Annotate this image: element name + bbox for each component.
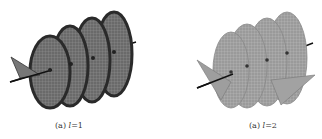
figure-panel-l1: (a) l=1 (0, 0, 161, 139)
figure-panel-l2: (a) l=2 (161, 0, 322, 139)
helix-surface-l2 (161, 0, 322, 118)
caption-l1: (a) l=1 (55, 121, 83, 130)
helix-surface-l1 (0, 0, 161, 118)
caption-l2: (a) l=2 (249, 121, 277, 130)
